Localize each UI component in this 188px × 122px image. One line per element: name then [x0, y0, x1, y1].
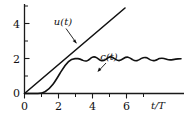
y-tick-label-4: 4: [13, 18, 20, 31]
u-label-arrowhead: [73, 40, 77, 44]
y-tick-label-2: 2: [13, 53, 20, 66]
x-axis-title: t/T: [151, 100, 166, 111]
series-c-label: c(t): [100, 51, 118, 62]
y-tick-label-0: 0: [13, 87, 20, 100]
series-c-curve: [25, 57, 182, 94]
series-u-label: u(t): [54, 16, 72, 27]
x-tick-label-6: 6: [123, 100, 130, 113]
x-tick-label-2: 2: [55, 100, 62, 113]
plot-area: 0 2 4 0 2 4 6 t/T u(t) c(t): [0, 0, 188, 122]
ramp-response-figure: 0 2 4 0 2 4 6 t/T u(t) c(t): [0, 0, 188, 122]
x-tick-label-0: 0: [21, 100, 28, 113]
x-tick-label-4: 4: [89, 100, 96, 113]
